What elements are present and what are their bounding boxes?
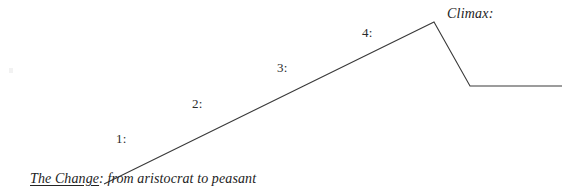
climax-label: Climax:	[447, 6, 494, 22]
stage-label-3: 3:	[277, 60, 288, 76]
plot-polyline	[104, 22, 562, 184]
plot-diagram-canvas: 1: 2: 3: 4: Climax: The Change: from ari…	[0, 0, 580, 195]
stage-label-4: 4:	[362, 25, 373, 41]
caption-underlined-title: The Change	[30, 171, 99, 186]
plot-line-graphic	[0, 0, 580, 195]
stage-label-1: 1:	[116, 131, 127, 147]
caption-rest-text: : from aristocrat to peasant	[99, 171, 256, 186]
plot-caption: The Change: from aristocrat to peasant	[30, 171, 256, 187]
stage-label-2: 2:	[192, 96, 203, 112]
